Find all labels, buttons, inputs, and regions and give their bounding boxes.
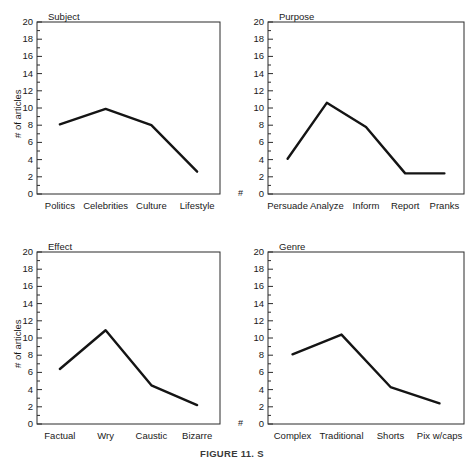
y-tick-label: 0 (11, 418, 33, 429)
x-tick-label: Persuade (264, 200, 311, 211)
y-tick-label: 4 (242, 154, 264, 165)
plot-frame (268, 252, 464, 424)
y-tick-label: 8 (11, 119, 33, 130)
x-tick-label: Inform (342, 200, 389, 211)
y-tick-label: 20 (242, 16, 264, 27)
y-tick-label: 4 (11, 154, 33, 165)
y-tick-label: 12 (242, 85, 264, 96)
x-tick-label: Celebrities (79, 200, 133, 211)
data-line (60, 109, 197, 172)
y-tick-label: 16 (11, 280, 33, 291)
y-tick-label: 4 (11, 384, 33, 395)
y-axis-label: # (238, 418, 243, 428)
x-tick-label: Traditional (313, 430, 370, 441)
x-tick-label: Pranks (421, 200, 468, 211)
y-tick-label: 2 (242, 171, 264, 182)
y-tick-label: 0 (242, 418, 264, 429)
y-tick-label: 12 (11, 315, 33, 326)
plot-frame (37, 22, 220, 194)
y-tick-label: 10 (11, 102, 33, 113)
y-tick-label: 20 (11, 16, 33, 27)
x-tick-label: Wry (79, 430, 133, 441)
y-tick-label: 2 (242, 401, 264, 412)
x-tick-label: Report (382, 200, 429, 211)
y-tick-label: 10 (242, 102, 264, 113)
y-axis-label: # of articles (12, 319, 23, 368)
y-tick-label: 0 (11, 188, 33, 199)
y-tick-label: 6 (11, 366, 33, 377)
y-tick-label: 14 (242, 298, 264, 309)
y-tick-label: 16 (11, 50, 33, 61)
chart-title: Effect (48, 242, 72, 252)
y-tick-label: 14 (11, 298, 33, 309)
y-tick-label: 18 (11, 263, 33, 274)
y-tick-label: 16 (242, 280, 264, 291)
y-axis-label: # (238, 188, 243, 198)
data-line (288, 103, 445, 174)
x-tick-label: Shorts (362, 430, 419, 441)
chart-title: Genre (279, 242, 305, 252)
y-axis-label: # of articles (12, 89, 23, 138)
y-tick-label: 8 (242, 349, 264, 360)
x-tick-label: Pix w/caps (411, 430, 468, 441)
x-tick-label: Complex (264, 430, 321, 441)
x-tick-label: Politics (33, 200, 87, 211)
y-tick-label: 14 (242, 68, 264, 79)
plot-frame (37, 252, 220, 424)
y-tick-label: 12 (11, 85, 33, 96)
y-tick-label: 10 (242, 332, 264, 343)
y-tick-label: 14 (11, 68, 33, 79)
x-tick-label: Culture (125, 200, 179, 211)
x-tick-label: Analyze (303, 200, 350, 211)
x-tick-label: Factual (33, 430, 87, 441)
y-tick-label: 6 (242, 136, 264, 147)
y-tick-label: 2 (11, 401, 33, 412)
figure-caption: FIGURE 11. S (0, 448, 464, 459)
y-tick-label: 0 (242, 188, 264, 199)
y-tick-label: 2 (11, 171, 33, 182)
y-tick-label: 20 (242, 246, 264, 257)
x-tick-label: Lifestyle (170, 200, 224, 211)
data-line (293, 335, 440, 404)
y-tick-label: 18 (11, 33, 33, 44)
y-tick-label: 20 (11, 246, 33, 257)
y-tick-label: 10 (11, 332, 33, 343)
y-tick-label: 6 (11, 136, 33, 147)
y-tick-label: 8 (11, 349, 33, 360)
y-tick-label: 18 (242, 263, 264, 274)
y-tick-label: 8 (242, 119, 264, 130)
chart-title: Purpose (279, 12, 314, 22)
chart-title: Subject (48, 12, 80, 22)
y-tick-label: 6 (242, 366, 264, 377)
x-tick-label: Caustic (125, 430, 179, 441)
plot-frame (268, 22, 464, 194)
y-tick-label: 12 (242, 315, 264, 326)
y-tick-label: 16 (242, 50, 264, 61)
data-line (60, 330, 197, 405)
x-tick-label: Bizarre (170, 430, 224, 441)
y-tick-label: 4 (242, 384, 264, 395)
y-tick-label: 18 (242, 33, 264, 44)
